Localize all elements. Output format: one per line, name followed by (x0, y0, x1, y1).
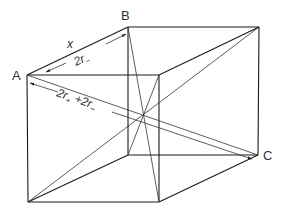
edge-length-label: x (66, 37, 74, 51)
vertex-label-c: C (263, 148, 272, 163)
face-diagonal-dimension (46, 34, 126, 72)
cube-diagram: A B C x 2r− 2r+ +2r− (0, 0, 283, 216)
body-diagonals (27, 27, 259, 202)
front-face (27, 75, 159, 202)
svg-text:2r+ +2r−: 2r+ +2r− (53, 85, 98, 114)
vertex-label-b: B (121, 8, 130, 23)
vertex-label-a: A (12, 68, 21, 83)
body-diagonal-label: 2r+ +2r− (53, 85, 98, 114)
